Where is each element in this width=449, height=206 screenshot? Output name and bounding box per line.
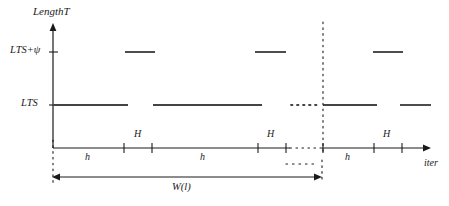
window-span-arrow bbox=[52, 174, 322, 181]
y-tick-label-lts-plus-psi: LTS+ψ bbox=[10, 45, 40, 56]
interval-label-H-second: H bbox=[267, 129, 274, 139]
window-span-label: W(l) bbox=[172, 182, 191, 193]
y-tick-label-lts: LTS bbox=[21, 98, 38, 109]
x-axis-label-iter: iter bbox=[424, 158, 438, 168]
window-boundary-dotted-line bbox=[53, 22, 323, 183]
y-axis bbox=[50, 23, 57, 148]
x-axis-right bbox=[322, 145, 431, 152]
diagram-canvas bbox=[0, 0, 449, 206]
step-timing-diagram: LengthT LTS+ψ LTS iter h h h H H H W(l) bbox=[0, 0, 449, 206]
interval-label-H-first: H bbox=[134, 129, 141, 139]
interval-label-h-middle: h bbox=[200, 152, 205, 162]
interval-label-h-left: h bbox=[85, 152, 90, 162]
y-axis-label: LengthT bbox=[33, 6, 70, 17]
interval-label-h-right: h bbox=[345, 152, 350, 162]
interval-label-H-third: H bbox=[383, 129, 390, 139]
